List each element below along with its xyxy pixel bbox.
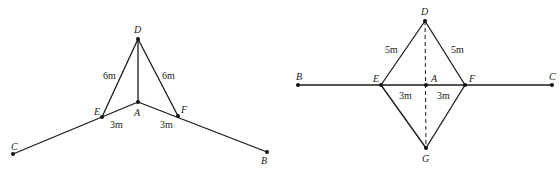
point-b <box>296 83 300 87</box>
length-df: 6m <box>162 70 175 81</box>
length-ea: 3m <box>110 119 123 130</box>
label-e: E <box>372 73 379 84</box>
label-f: F <box>468 73 476 84</box>
point-a <box>424 83 428 87</box>
point-d <box>423 19 427 23</box>
point-e <box>379 83 383 87</box>
point-c <box>550 83 554 87</box>
label-b: B <box>261 155 267 166</box>
segment-ab <box>138 102 267 152</box>
length-af: 3m <box>437 90 450 101</box>
point-b <box>265 150 269 154</box>
label-e: E <box>93 106 100 117</box>
label-g: G <box>422 153 429 164</box>
label-a: A <box>430 73 438 84</box>
label-d: D <box>420 6 429 17</box>
length-de: 5m <box>385 44 398 55</box>
point-d <box>136 37 140 41</box>
label-f: F <box>180 104 188 115</box>
diagram-canvas: D A E F C B 6m 6m 3m 3m D E A F G B C 5m… <box>0 0 560 173</box>
point-f <box>176 114 180 118</box>
label-c: C <box>549 71 556 82</box>
length-de: 6m <box>103 70 116 81</box>
point-e <box>100 115 104 119</box>
label-b: B <box>296 71 302 82</box>
label-a: A <box>133 107 141 118</box>
length-df: 5m <box>451 44 464 55</box>
label-d: D <box>133 24 142 35</box>
length-af: 3m <box>160 119 173 130</box>
length-ea: 3m <box>399 90 412 101</box>
left-figure: D A E F C B 6m 6m 3m 3m <box>11 24 269 166</box>
point-g <box>424 146 428 150</box>
point-f <box>463 83 467 87</box>
point-c <box>11 152 15 156</box>
point-a <box>136 100 140 104</box>
right-figure: D E A F G B C 5m 5m 3m 3m <box>296 6 556 164</box>
label-c: C <box>11 141 18 152</box>
